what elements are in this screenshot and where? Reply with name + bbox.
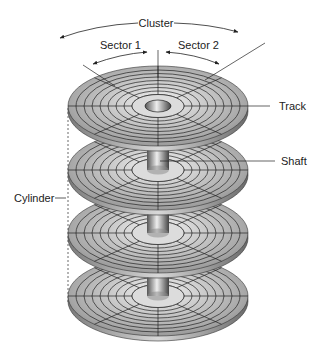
platter-1 <box>68 66 248 151</box>
sector2-arrow <box>166 52 219 64</box>
sector1-label: Sector 1 <box>100 39 141 51</box>
sector2-label: Sector 2 <box>178 39 219 51</box>
cluster-arrow-right <box>174 23 238 32</box>
track-label: Track <box>279 100 307 112</box>
cylinder-label: Cylinder <box>14 192 55 204</box>
sector1-arrow <box>93 52 147 64</box>
cluster-arrow-left <box>60 23 138 38</box>
cluster-label: Cluster <box>139 17 174 29</box>
disk-diagram: Cylinder Track Shaft Cluster Sector 1 Se… <box>0 0 317 358</box>
shaft-label: Shaft <box>281 155 307 167</box>
